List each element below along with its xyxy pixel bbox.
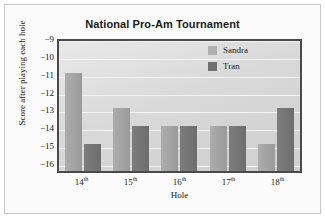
y-tick-label: −12 (28, 88, 54, 98)
legend-swatch-tran (208, 62, 217, 71)
x-tick-suffix: th (84, 176, 89, 182)
y-tick-label: −15 (28, 141, 54, 151)
bar-tran-16 (180, 126, 197, 171)
y-tick-label: −13 (28, 105, 54, 115)
x-tick-number: 14 (75, 177, 84, 187)
bar-group (65, 41, 101, 171)
x-tick-suffix: th (280, 176, 285, 182)
bar-tran-14 (84, 144, 101, 171)
bar-sandra-17 (210, 126, 227, 171)
y-tick-label: −10 (28, 52, 54, 62)
plot-area (57, 39, 302, 173)
x-axis-label: Hole (57, 190, 302, 200)
y-axis-tick-labels: −9−10−11−12−13−14−15−16 (26, 39, 54, 173)
chart-legend: SandraTran (208, 45, 248, 71)
bar-tran-17 (229, 126, 246, 171)
legend-item-sandra: Sandra (208, 45, 248, 55)
x-tick-label: 16th (173, 176, 187, 187)
legend-item-tran: Tran (208, 61, 248, 71)
x-tick-label: 15th (124, 176, 138, 187)
y-tick-label: −11 (28, 70, 54, 80)
legend-label: Tran (223, 61, 240, 71)
legend-swatch-sandra (208, 46, 217, 55)
bar-sandra-15 (113, 108, 130, 171)
bar-sandra-14 (65, 73, 82, 171)
x-tick-number: 18 (271, 177, 280, 187)
x-tick-label: 17th (222, 176, 236, 187)
chart-figure: National Pro-Am Tournament Score after p… (0, 0, 325, 218)
chart-title: National Pro-Am Tournament (0, 18, 325, 30)
y-tick-label: −14 (28, 123, 54, 133)
y-tick-label: −16 (28, 159, 54, 169)
legend-label: Sandra (223, 45, 248, 55)
y-tick-label: −9 (28, 34, 54, 44)
bar-group (161, 41, 197, 171)
bar-groups (59, 41, 300, 171)
x-axis-tick-labels: 14th15th16th17th18th (57, 176, 302, 187)
bar-sandra-16 (161, 126, 178, 171)
bar-tran-15 (132, 126, 149, 171)
x-tick-number: 15 (124, 177, 133, 187)
x-tick-label: 14th (75, 176, 89, 187)
bar-tran-18 (277, 108, 294, 171)
bar-group (113, 41, 149, 171)
x-tick-suffix: th (231, 176, 236, 182)
x-tick-number: 17 (222, 177, 231, 187)
bar-sandra-18 (258, 144, 275, 171)
x-tick-suffix: th (182, 176, 187, 182)
bar-group (258, 41, 294, 171)
x-tick-suffix: th (133, 176, 138, 182)
x-tick-number: 16 (173, 177, 182, 187)
x-tick-label: 18th (271, 176, 285, 187)
